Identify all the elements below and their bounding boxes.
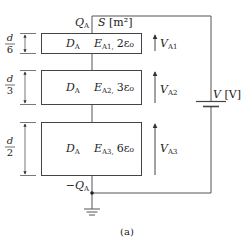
bottom-charge-label: −Q: [66, 179, 84, 192]
svg-text:2: 2: [7, 147, 13, 158]
svg-text:S [m²]: S [m²]: [98, 16, 132, 29]
battery-icon: [196, 102, 226, 107]
svg-text:DA: DA: [65, 142, 81, 156]
svg-text:VA2: VA2: [160, 83, 177, 97]
capacitor-diagram: QA S [m²] DA EA1,2ε₀ VA1 DA EA2,3ε₀ VA2 …: [0, 0, 250, 242]
svg-text:DA: DA: [65, 37, 81, 51]
svg-text:VA1: VA1: [160, 37, 177, 51]
svg-text:6: 6: [7, 44, 13, 55]
svg-text:VA3: VA3: [160, 142, 177, 156]
svg-text:V [V]: V [V]: [213, 88, 241, 101]
thickness-label-3: d 2: [5, 135, 15, 158]
svg-text:EA2,3ε₀: EA2,3ε₀: [93, 81, 134, 95]
svg-text:DA: DA: [65, 81, 81, 95]
svg-text:EA3,6ε₀: EA3,6ε₀: [93, 142, 134, 156]
svg-text:QA: QA: [75, 16, 90, 30]
thickness-label-1: d 6: [5, 32, 15, 55]
svg-text:d: d: [7, 73, 13, 84]
figure-label: (a): [120, 226, 134, 237]
thickness-dimensions: [20, 34, 36, 176]
ground-icon: [84, 209, 100, 215]
svg-text:d: d: [7, 32, 13, 43]
svg-text:−QA: −QA: [66, 179, 90, 193]
svg-text:EA1,2ε₀: EA1,2ε₀: [93, 37, 134, 51]
svg-text:d: d: [7, 135, 13, 146]
thickness-label-2: d 3: [5, 73, 15, 96]
top-charge-label: Q: [75, 16, 84, 29]
junction-dot: [90, 191, 94, 195]
svg-text:3: 3: [7, 85, 13, 96]
